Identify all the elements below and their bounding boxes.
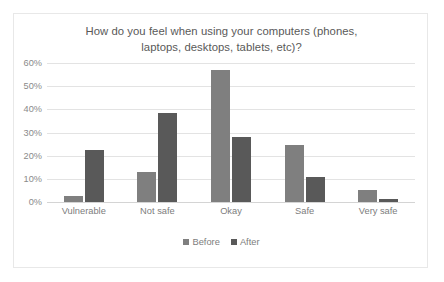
- x-axis-label-okay: Okay: [194, 206, 268, 216]
- bar-after[interactable]: [379, 199, 398, 202]
- legend-swatch-icon: [183, 239, 189, 245]
- bar-before[interactable]: [211, 70, 230, 202]
- gridline: [47, 202, 415, 203]
- bar-after[interactable]: [232, 137, 251, 202]
- bar-before[interactable]: [358, 190, 377, 202]
- legend-item-after[interactable]: After: [231, 237, 260, 247]
- chart-legend: BeforeAfter: [14, 237, 429, 247]
- x-axis-label-not-safe: Not safe: [121, 206, 195, 216]
- legend-item-before[interactable]: Before: [183, 237, 219, 247]
- x-axis-category-labels: VulnerableNot safeOkaySafeVery safe: [47, 206, 415, 216]
- bar-after[interactable]: [158, 113, 177, 202]
- y-axis-tick-label: 30%: [24, 128, 42, 138]
- bar-group: [268, 63, 342, 202]
- bar-after[interactable]: [306, 177, 325, 202]
- x-axis-label-very-safe: Very safe: [341, 206, 415, 216]
- x-axis-label-vulnerable: Vulnerable: [47, 206, 121, 216]
- chart-title-line-2: laptops, desktops, tablets, etc)?: [141, 41, 302, 53]
- bar-after[interactable]: [85, 150, 104, 202]
- y-axis-tick-label: 40%: [24, 104, 42, 114]
- bar-group: [121, 63, 195, 202]
- legend-swatch-icon: [231, 239, 237, 245]
- bar-groups: [47, 63, 415, 202]
- y-axis-tick-label: 10%: [24, 174, 42, 184]
- bar-before[interactable]: [285, 145, 304, 202]
- x-axis-label-safe: Safe: [268, 206, 342, 216]
- legend-label: Before: [192, 237, 219, 247]
- bar-before[interactable]: [137, 172, 156, 202]
- y-axis-tick-label: 60%: [24, 58, 42, 68]
- chart-title: How do you feel when using your computer…: [44, 23, 399, 55]
- y-axis-tick-label: 0%: [29, 197, 42, 207]
- plot-area: 60%50%40%30%20%10%0%: [47, 63, 415, 202]
- chart-title-line-1: How do you feel when using your computer…: [86, 25, 358, 37]
- legend-label: After: [240, 237, 260, 247]
- chart-container: How do you feel when using your computer…: [13, 13, 428, 268]
- y-axis-tick-label: 50%: [24, 81, 42, 91]
- y-axis-tick-label: 20%: [24, 151, 42, 161]
- bar-group: [194, 63, 268, 202]
- bar-group: [47, 63, 121, 202]
- bar-before[interactable]: [64, 196, 83, 202]
- bar-group: [341, 63, 415, 202]
